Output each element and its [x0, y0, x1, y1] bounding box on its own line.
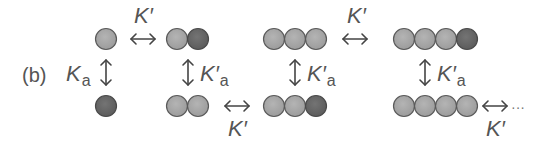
double-arrow-vertical-icon — [183, 60, 193, 85]
k-prime-a-label: K′a — [437, 63, 466, 85]
monomer-light-circle — [285, 29, 306, 50]
double-arrow-vertical-icon — [420, 60, 430, 85]
monomer-light-circle — [306, 29, 327, 50]
k-prime-label: K′ — [228, 118, 247, 140]
k-prime-label: K′ — [134, 5, 153, 27]
bottom-trimer — [264, 96, 327, 117]
k-prime-label: K′ — [486, 118, 505, 140]
k-prime-a-subscript: a — [220, 72, 229, 89]
monomer-light-circle — [96, 29, 117, 50]
k-prime-a-label: K′a — [307, 63, 336, 85]
double-arrow-horizontal-icon — [225, 101, 249, 111]
k-prime-a-main: K′ — [437, 61, 456, 86]
k-prime-a-main: K′ — [200, 61, 219, 86]
bottom-monomer — [96, 96, 117, 117]
double-arrow-vertical-icon — [101, 60, 111, 85]
double-arrow-horizontal-icon — [483, 101, 507, 111]
top-dimer — [167, 29, 209, 50]
top-trimer — [264, 29, 327, 50]
monomer-dark-circle — [188, 29, 209, 50]
k-prime-a-main: K′ — [307, 61, 326, 86]
monomer-light-circle — [436, 96, 457, 117]
monomer-dark-circle — [306, 96, 327, 117]
panel-label: (b) — [22, 65, 46, 85]
monomer-dark-circle — [457, 29, 478, 50]
k-prime-label: K′ — [347, 5, 366, 27]
monomer-light-circle — [457, 96, 478, 117]
monomer-light-circle — [436, 29, 457, 50]
bottom-dimer — [167, 96, 209, 117]
k-a-subscript: a — [82, 72, 91, 89]
bottom-tetramer — [394, 96, 478, 117]
monomer-light-circle — [167, 96, 188, 117]
k-a-label: Ka — [66, 63, 91, 85]
double-arrow-vertical-icon — [290, 60, 300, 85]
k-prime-a-label: K′a — [200, 63, 229, 85]
monomer-light-circle — [415, 29, 436, 50]
monomer-dark-circle — [96, 96, 117, 117]
k-prime-a-subscript: a — [327, 72, 336, 89]
double-arrow-horizontal-icon — [131, 34, 155, 44]
monomer-light-circle — [188, 96, 209, 117]
top-tetramer — [394, 29, 478, 50]
monomer-light-circle — [285, 96, 306, 117]
monomer-light-circle — [394, 29, 415, 50]
double-arrow-horizontal-icon — [343, 34, 367, 44]
monomer-light-circle — [394, 96, 415, 117]
monomer-light-circle — [415, 96, 436, 117]
k-prime-a-subscript: a — [457, 72, 466, 89]
top-monomer — [96, 29, 117, 50]
monomer-light-circle — [264, 96, 285, 117]
monomer-light-circle — [264, 29, 285, 50]
monomer-light-circle — [167, 29, 188, 50]
ellipsis-continuation: ··· — [511, 100, 525, 114]
k-a-main: K — [66, 61, 81, 86]
